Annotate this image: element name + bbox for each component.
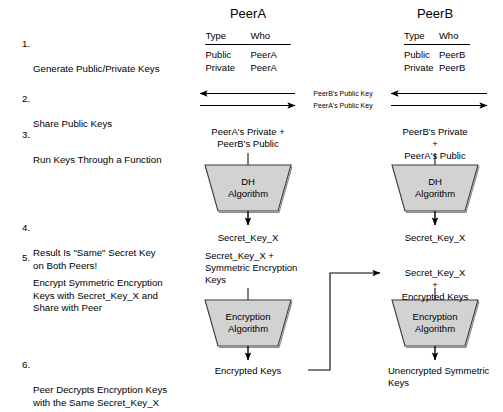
step-6: 6. Peer Decrypts Encryption Keys with th… xyxy=(22,359,212,412)
step-5-number: 5. xyxy=(22,252,30,265)
key-type: Private xyxy=(404,62,439,74)
step-3: 3. Run Keys Through a Function xyxy=(22,129,207,179)
peer-a-key-table: Type Who Public PeerA Private PeerA xyxy=(206,30,291,74)
peer-a-title: PeerA xyxy=(230,6,266,21)
key-owner: PeerB xyxy=(439,62,470,74)
step-4-number: 4. xyxy=(22,222,30,235)
left-dh-box-label: DH Algorithm xyxy=(228,176,268,200)
key-owner: PeerB xyxy=(439,45,470,62)
right-encryption-output: Unencrypted Symmetric Keys xyxy=(388,365,503,389)
step-3-number: 3. xyxy=(22,129,30,142)
step-3-label: Run Keys Through a Function xyxy=(22,154,207,167)
left-dh-output: Secret_Key_X xyxy=(218,232,279,244)
left-encryption-output: Encrypted Keys xyxy=(215,365,282,377)
connector-encrypted-keys-to-peerb xyxy=(308,273,380,370)
key-owner: PeerA xyxy=(251,45,291,62)
left-dh-inputs: PeerA's Private + PeerB's Public xyxy=(211,126,284,150)
table-row: Private PeerA xyxy=(206,62,291,74)
step-5-label: Encrypt Symmetric Encryption Keys with S… xyxy=(22,277,207,315)
right-encryption-inputs: Secret_Key_X + Encrypted Keys xyxy=(401,267,469,303)
arrow-label-peerb-public-key: PeerB's Public Key xyxy=(313,89,372,98)
step-6-label: Peer Decrypts Encryption Keys with the S… xyxy=(22,384,212,409)
key-table-header-who: Who xyxy=(251,30,291,45)
table-row: Private PeerB xyxy=(404,62,470,74)
peer-b-key-table: Type Who Public PeerB Private PeerB xyxy=(404,30,470,74)
table-row: Public PeerB xyxy=(404,45,470,62)
key-type: Public xyxy=(404,45,439,62)
key-table-header-type: Type xyxy=(404,30,439,45)
step-1-label: Generate Public/Private Keys xyxy=(22,63,207,76)
table-row: Public PeerA xyxy=(206,45,291,62)
key-table-header-who: Who xyxy=(439,30,470,45)
key-type: Public xyxy=(206,45,251,62)
key-type: Private xyxy=(206,62,251,74)
step-1-number: 1. xyxy=(22,38,30,51)
peer-b-title: PeerB xyxy=(417,6,453,21)
step-2-number: 2. xyxy=(22,93,30,106)
right-dh-inputs: PeerB's Private + PeerA's Public xyxy=(401,126,469,162)
step-6-number: 6. xyxy=(22,359,30,372)
left-encryption-box-label: Encryption Algorithm xyxy=(226,311,271,335)
right-dh-box-label: DH Algorithm xyxy=(415,176,455,200)
key-table-header-type: Type xyxy=(206,30,251,45)
arrow-label-peera-public-key: PeerA's Public Key xyxy=(313,101,372,110)
left-encryption-inputs: Secret_Key_X + Symmetric Encryption Keys xyxy=(205,250,320,286)
step-1: 1. Generate Public/Private Keys xyxy=(22,38,207,88)
key-owner: PeerA xyxy=(251,62,291,74)
right-encryption-box-label: Encryption Algorithm xyxy=(413,311,458,335)
step-5: 5. Encrypt Symmetric Encryption Keys wit… xyxy=(22,252,207,328)
right-dh-output: Secret_Key_X xyxy=(405,232,466,244)
